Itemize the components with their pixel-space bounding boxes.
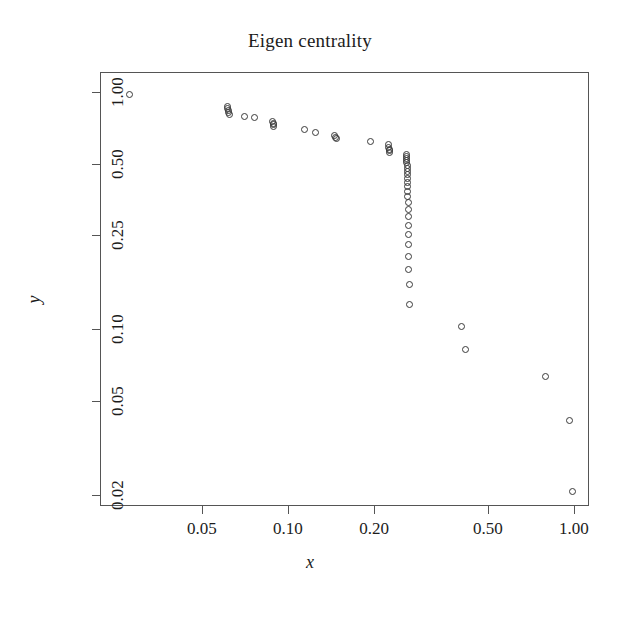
x-tick-mark bbox=[488, 506, 489, 514]
data-point bbox=[458, 323, 465, 330]
data-point bbox=[405, 213, 412, 220]
x-axis-title: x bbox=[0, 552, 620, 573]
data-point bbox=[301, 126, 308, 133]
y-tick-mark bbox=[92, 401, 100, 402]
data-point bbox=[566, 417, 573, 424]
data-point bbox=[405, 206, 412, 213]
page-title: Eigen centrality bbox=[0, 30, 620, 52]
y-tick-label: 0.50 bbox=[108, 164, 128, 194]
x-tick-mark bbox=[374, 506, 375, 514]
data-point bbox=[405, 253, 412, 260]
y-tick-mark bbox=[92, 92, 100, 93]
data-point bbox=[312, 129, 319, 136]
data-point bbox=[405, 266, 412, 273]
y-tick-label: 0.25 bbox=[108, 235, 128, 265]
data-point bbox=[542, 373, 549, 380]
x-tick-label: 0.05 bbox=[187, 519, 217, 539]
y-tick-label: 0.05 bbox=[108, 401, 128, 431]
data-point bbox=[241, 113, 248, 120]
data-point bbox=[367, 138, 374, 145]
y-axis-title: y bbox=[24, 296, 45, 304]
data-points-layer bbox=[101, 73, 588, 505]
data-point bbox=[333, 135, 340, 142]
data-point bbox=[405, 222, 412, 229]
data-point bbox=[386, 149, 393, 156]
y-tick-label: 0.10 bbox=[108, 329, 128, 359]
x-tick-mark bbox=[574, 506, 575, 514]
x-tick-label: 1.00 bbox=[559, 519, 589, 539]
data-point bbox=[569, 488, 576, 495]
y-tick-label: 1.00 bbox=[108, 92, 128, 122]
y-tick-label: 0.02 bbox=[108, 495, 128, 525]
scatter-plot-figure: Eigen centrality 0.050.100.200.501.00 1.… bbox=[0, 0, 620, 621]
x-tick-label: 0.50 bbox=[473, 519, 503, 539]
data-point bbox=[405, 231, 412, 238]
data-point bbox=[251, 114, 258, 121]
x-tick-mark bbox=[202, 506, 203, 514]
plot-area bbox=[100, 72, 589, 506]
data-point bbox=[405, 199, 412, 206]
x-tick-label: 0.20 bbox=[359, 519, 389, 539]
y-tick-mark bbox=[92, 235, 100, 236]
x-tick-label: 0.10 bbox=[273, 519, 303, 539]
data-point bbox=[406, 281, 413, 288]
y-tick-mark bbox=[92, 495, 100, 496]
y-tick-mark bbox=[92, 164, 100, 165]
x-tick-mark bbox=[288, 506, 289, 514]
data-point bbox=[270, 123, 277, 130]
data-point bbox=[406, 301, 413, 308]
data-point bbox=[462, 346, 469, 353]
data-point bbox=[226, 111, 233, 118]
y-tick-mark bbox=[92, 329, 100, 330]
data-point bbox=[405, 241, 412, 248]
